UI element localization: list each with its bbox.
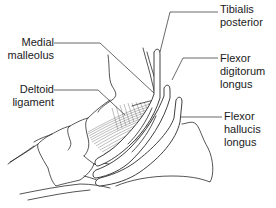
label-line: digitorum xyxy=(220,65,265,78)
label-flexor-digitorum-longus: Flexor digitorum longus xyxy=(220,52,265,91)
label-line: Flexor xyxy=(220,52,265,65)
label-line: ligament xyxy=(4,96,54,109)
leader-flexor-digitorum-longus xyxy=(172,58,218,80)
label-line: posterior xyxy=(220,16,263,29)
leader-tibialis-posterior xyxy=(160,12,218,52)
label-tibialis-posterior: Tibialis posterior xyxy=(220,3,263,29)
leader-lines xyxy=(54,12,222,117)
tendons xyxy=(93,49,182,186)
leader-medial-malleolus xyxy=(54,43,155,94)
tendon-tibialis-posterior xyxy=(95,49,160,166)
anatomy-diagram: Tibialis posterior Medial malleolus Flex… xyxy=(0,0,276,208)
label-medial-malleolus: Medial malleolus xyxy=(4,36,54,62)
label-flexor-hallucis-longus: Flexor hallucis longus xyxy=(224,110,261,149)
label-line: Medial xyxy=(4,36,54,49)
label-line: Deltoid xyxy=(4,83,54,96)
label-line: malleolus xyxy=(4,49,54,62)
label-deltoid-ligament: Deltoid ligament xyxy=(4,83,54,109)
label-line: hallucis xyxy=(224,123,261,136)
leader-deltoid-ligament xyxy=(54,90,125,115)
label-line: Tibialis xyxy=(220,3,263,16)
label-line: longus xyxy=(220,78,265,91)
label-line: longus xyxy=(224,136,261,149)
label-line: Flexor xyxy=(224,110,261,123)
